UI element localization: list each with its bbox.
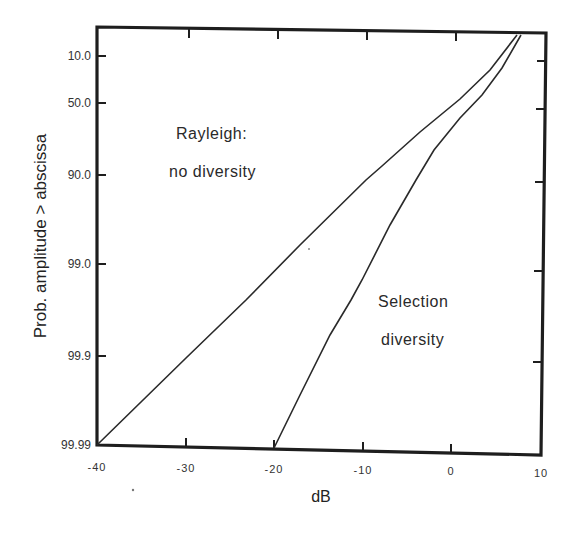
selection-annotation-line2: diversity [381,331,444,348]
curves [97,35,521,448]
x-tick-label: -30 [177,462,196,474]
selection-diversity-curve [274,35,521,448]
y-tick-label: 99.99 [61,438,91,452]
rayleigh-annotation-line1: Rayleigh: [176,125,247,142]
scan-artifact-dot [132,489,134,491]
y-tick-labels: 10.0 50.0 90.0 99.0 99.9 99.99 [61,49,91,452]
rayleigh-diversity-chart: 10.0 50.0 90.0 99.0 99.9 99.99 -40 -30 -… [0,0,576,540]
x-axis-title: dB [311,488,331,505]
selection-annotation-line1: Selection [378,293,448,310]
x-tick-label: -10 [354,464,373,476]
y-tick-label: 99.9 [68,349,92,363]
x-tick-label: -20 [265,463,284,475]
scan-artifact-dot [308,248,310,250]
y-tick-label: 50.0 [68,96,92,110]
y-axis-title: Prob. amplitude > abscissa [31,133,50,338]
x-tick-label: 10 [534,467,548,479]
x-tick-label: -40 [88,461,107,473]
y-tick-label: 99.0 [68,257,92,271]
y-tick-label: 90.0 [68,168,92,182]
x-tick-label: 0 [447,465,454,477]
y-tick-label: 10.0 [68,49,92,63]
rayleigh-annotation-line2: no diversity [169,163,256,180]
rayleigh-no-diversity-curve [97,35,517,445]
x-tick-labels: -40 -30 -20 -10 0 10 [88,461,549,479]
plot-frame [97,27,546,455]
